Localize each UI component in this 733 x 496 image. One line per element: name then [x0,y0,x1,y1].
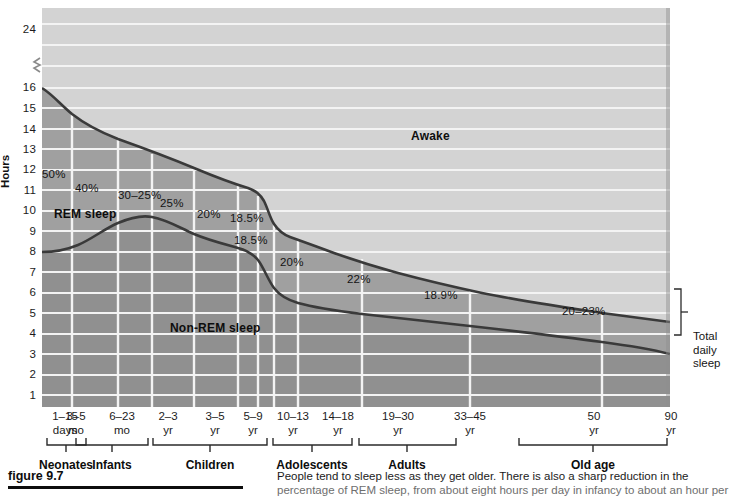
caption-line-1: People tend to sleep less as they get ol… [277,470,689,482]
figure-caption: figure 9.7 People tend to sleep less as … [0,469,733,492]
pct-label-22: 22% [347,273,371,285]
y-tick-8: 8 [29,246,36,258]
x-tick-11-unit: yr [655,423,687,437]
pct-label-20-lower: 20% [280,256,304,268]
y-tick-13: 13 [23,144,36,156]
x-tick-9: 33–45 yr [446,409,494,437]
sleep-area-chart [42,8,670,407]
x-tick-2-unit: mo [99,423,145,437]
x-tick-11-value: 90 [665,410,678,422]
x-tick-6-value: 10–13 [277,410,309,422]
figure-rule [8,486,243,489]
total-daily-sleep-line2: daily [693,344,721,358]
y-tick-15: 15 [23,103,36,115]
x-tick-4-value: 3–5 [205,410,224,422]
x-tick-10-value: 50 [588,410,601,422]
y-tick-4: 4 [29,328,36,340]
x-tick-2-value: 6–23 [109,410,135,422]
x-tick-7: 14–18 yr [314,409,362,437]
pct-label-20-upper: 20% [197,208,221,220]
x-tick-8: 19–30 yr [374,409,422,437]
y-tick-3: 3 [29,349,36,361]
x-tick-4: 3–5 yr [194,409,236,437]
pct-label-18-5-upper: 18.5% [230,212,264,224]
non-rem-sleep-label: Non-REM sleep [170,321,261,335]
y-tick-16: 16 [23,82,36,94]
x-tick-9-value: 33–45 [454,410,486,422]
x-tick-11: 90 yr [655,409,687,437]
pct-label-30-25: 30–25% [118,189,161,201]
figure-number: figure 9.7 [8,469,64,483]
pct-label-18-5-lower: 18.5% [234,234,268,246]
awake-label: Awake [411,129,450,143]
x-tick-6-unit: yr [269,423,317,437]
rem-sleep-label: REM sleep [54,207,117,221]
y-tick-5: 5 [29,308,36,320]
x-tick-5: 5–9 yr [232,409,274,437]
x-tick-5-value: 5–9 [243,410,262,422]
y-tick-9: 9 [29,226,36,238]
y-tick-7: 7 [29,267,36,279]
caption-line-2: percentage of REM sleep, from about eigh… [277,484,728,496]
x-tick-1-unit: mo [53,423,99,437]
y-tick-11: 11 [24,185,36,197]
total-daily-sleep-label: Total daily sleep [693,330,721,371]
pct-label-18-9: 18.9% [424,289,458,301]
total-daily-sleep-line3: sleep [693,357,721,371]
x-tick-7-value: 14–18 [322,410,354,422]
x-tick-7-unit: yr [314,423,362,437]
y-tick-6: 6 [29,287,36,299]
x-tick-8-unit: yr [374,423,422,437]
y-tick-12: 12 [23,164,36,176]
x-tick-1-value: 3–5 [66,410,85,422]
x-tick-10: 50 yr [578,409,610,437]
y-tick-24: 24 [23,24,36,36]
x-tick-10-unit: yr [578,423,610,437]
total-daily-sleep-line1: Total [693,330,721,344]
x-tick-4-unit: yr [194,423,236,437]
y-tick-14: 14 [23,124,36,136]
pct-label-40: 40% [75,182,99,194]
y-axis-title: Hours [0,155,11,188]
plot-area: Awake REM sleep Non-REM sleep 50% 40% 30… [42,8,670,407]
pct-label-20-23: 20–23% [562,305,605,317]
x-tick-9-unit: yr [446,423,494,437]
x-tick-3: 2–3 yr [147,409,189,437]
x-tick-3-unit: yr [147,423,189,437]
plot-right-edge [666,8,670,407]
x-tick-2: 6–23 mo [99,409,145,437]
axis-break-icon [26,57,42,73]
y-tick-10: 10 [23,205,36,217]
x-tick-1: 3–5 mo [53,409,99,437]
x-tick-8-value: 19–30 [382,410,414,422]
pct-label-25: 25% [160,197,184,209]
pct-label-50: 50% [42,168,66,180]
x-tick-5-unit: yr [232,423,274,437]
x-tick-3-value: 2–3 [158,410,177,422]
y-axis: Hours 24 16 15 14 13 12 11 10 9 8 7 6 5 … [0,0,42,410]
x-tick-6: 10–13 yr [269,409,317,437]
total-daily-sleep-bracket [672,288,690,336]
y-tick-1: 1 [29,390,36,402]
y-tick-2: 2 [29,369,36,381]
